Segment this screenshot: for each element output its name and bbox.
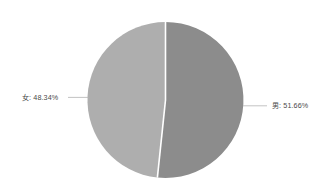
pie-label-female: 女: 48.34% bbox=[22, 93, 58, 102]
pie-chart-container: 女: 48.34% 男: 51.66% bbox=[0, 0, 330, 196]
pie-slice-female[interactable] bbox=[87, 22, 165, 178]
pie-label-male: 男: 51.66% bbox=[272, 101, 308, 110]
pie-slice-male[interactable] bbox=[157, 22, 243, 178]
